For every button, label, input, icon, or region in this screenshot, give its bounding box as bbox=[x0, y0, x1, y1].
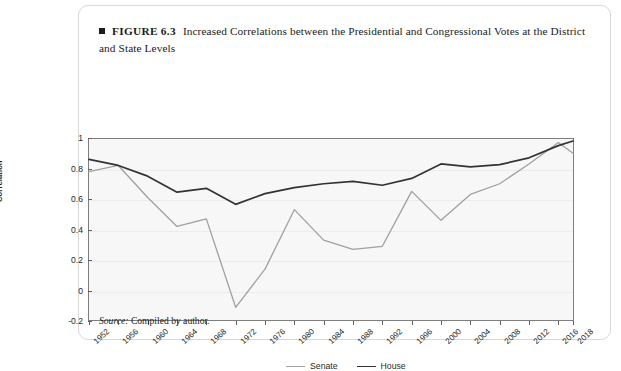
x-tick-mark bbox=[573, 321, 574, 325]
x-tick-label: 2018 bbox=[576, 327, 595, 346]
x-tick-label: 1976 bbox=[268, 327, 287, 346]
y-tick-label: 0.6 bbox=[71, 195, 83, 203]
legend-label-house: House bbox=[381, 361, 406, 371]
x-tick-mark bbox=[353, 321, 354, 325]
legend-item-house: House bbox=[357, 361, 406, 371]
x-tick-label: 1988 bbox=[356, 327, 375, 346]
x-tick-mark bbox=[382, 321, 383, 325]
x-tick-label: 1960 bbox=[150, 327, 169, 346]
y-axis-tick-labels: 1 0.8 0.6 0.4 0.2 0 -0.2 bbox=[51, 64, 83, 329]
source-label: Source: bbox=[99, 315, 128, 326]
x-tick-label: 1980 bbox=[297, 327, 316, 346]
x-tick-label: 1952 bbox=[92, 327, 111, 346]
x-tick-mark bbox=[412, 321, 413, 325]
senate-line bbox=[89, 143, 573, 308]
y-tick-label: 0 bbox=[78, 287, 83, 295]
figure-card: FIGURE 6.3Increased Correlations between… bbox=[78, 5, 611, 340]
x-tick-label: 2000 bbox=[444, 327, 463, 346]
y-tick-label: 1 bbox=[78, 134, 83, 142]
x-tick-mark bbox=[500, 321, 501, 325]
x-tick-label: 1968 bbox=[209, 327, 228, 346]
house-line bbox=[89, 141, 573, 204]
x-tick-label: 1996 bbox=[414, 327, 433, 346]
x-tick-mark bbox=[294, 321, 295, 325]
x-tick-mark bbox=[89, 321, 90, 325]
chart-legend: Senate House bbox=[286, 361, 406, 371]
legend-label-senate: Senate bbox=[310, 361, 338, 371]
x-tick-mark bbox=[529, 321, 530, 325]
source-text: Compiled by author. bbox=[131, 315, 210, 326]
figure-caption: FIGURE 6.3Increased Correlations between… bbox=[99, 23, 597, 56]
y-tick-label: 0.2 bbox=[71, 256, 83, 264]
y-axis-title: Correlation bbox=[0, 160, 4, 202]
y-tick-label: 0.8 bbox=[71, 165, 83, 173]
x-tick-label: 1964 bbox=[180, 327, 199, 346]
source-note: Source: Compiled by author. bbox=[99, 315, 210, 326]
legend-swatch-senate bbox=[286, 366, 305, 367]
legend-item-senate: Senate bbox=[286, 361, 338, 371]
x-tick-label: 1992 bbox=[385, 327, 404, 346]
x-tick-label: 2008 bbox=[502, 327, 521, 346]
y-tick-label: 0.4 bbox=[71, 226, 83, 234]
x-tick-label: 2012 bbox=[532, 327, 551, 346]
figure-number: FIGURE 6.3 bbox=[112, 25, 176, 37]
x-tick-mark bbox=[236, 321, 237, 325]
x-tick-mark bbox=[265, 321, 266, 325]
y-tick-label: -0.2 bbox=[68, 317, 83, 325]
x-tick-label: 1972 bbox=[238, 327, 257, 346]
x-tick-mark bbox=[441, 321, 442, 325]
x-tick-mark bbox=[324, 321, 325, 325]
chart-region: Correlation 1 0.8 0.6 0.4 0.2 0 -0.2 195… bbox=[1, 64, 621, 329]
caption-bullet-icon bbox=[99, 28, 105, 34]
x-tick-label: 1956 bbox=[121, 327, 140, 346]
chart-lines bbox=[88, 138, 574, 321]
x-tick-mark bbox=[470, 321, 471, 325]
x-tick-mark bbox=[558, 321, 559, 325]
x-tick-label: 1984 bbox=[326, 327, 345, 346]
x-tick-label: 2004 bbox=[473, 327, 492, 346]
legend-swatch-house bbox=[357, 366, 376, 367]
